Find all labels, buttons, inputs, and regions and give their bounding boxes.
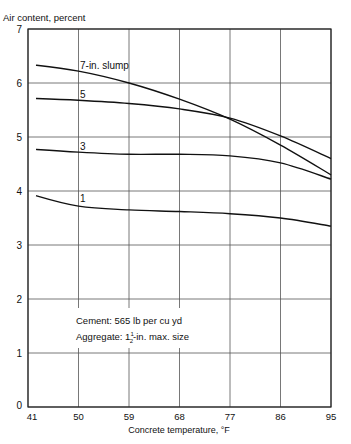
y-tick-label: 7 bbox=[16, 24, 22, 35]
y-tick-label: 4 bbox=[16, 186, 22, 197]
series-label: 3 bbox=[80, 141, 86, 152]
x-tick-label: 50 bbox=[73, 411, 84, 422]
x-tick-label: 86 bbox=[275, 411, 286, 422]
x-tick-label: 77 bbox=[225, 411, 236, 422]
y-axis-label: Air content, percent bbox=[3, 12, 86, 23]
y-tick-label: 2 bbox=[16, 294, 22, 305]
air-content-chart: 4150596877869501234567 Cement: 565 lb pe… bbox=[0, 0, 351, 444]
note-cement: Cement: 565 lb per cu yd bbox=[76, 315, 182, 326]
series-line bbox=[36, 65, 331, 175]
x-tick-label: 95 bbox=[326, 411, 337, 422]
x-tick-label: 68 bbox=[174, 411, 185, 422]
series-line bbox=[36, 149, 331, 179]
y-tick-label: 5 bbox=[16, 132, 22, 143]
series-label: 1 bbox=[80, 193, 86, 204]
tick-labels: 4150596877869501234567 bbox=[16, 24, 336, 422]
series-label: 5 bbox=[80, 89, 86, 100]
x-tick-label: 41 bbox=[27, 411, 38, 422]
x-axis-label: Concrete temperature, °F bbox=[128, 425, 230, 435]
y-tick-label: 0 bbox=[16, 400, 22, 411]
series-label: 7-in. slump bbox=[80, 60, 129, 71]
annotation-box: Cement: 565 lb per cu yd Aggregate: 112-… bbox=[68, 308, 208, 348]
y-tick-label: 1 bbox=[16, 348, 22, 359]
y-tick-label: 3 bbox=[16, 240, 22, 251]
y-tick-label: 6 bbox=[16, 78, 22, 89]
x-tick-label: 59 bbox=[124, 411, 135, 422]
